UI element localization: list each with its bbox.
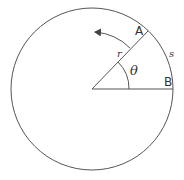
label-point-a: A xyxy=(135,24,144,38)
label-arc-length: s xyxy=(169,48,174,59)
label-point-b: B xyxy=(164,75,172,89)
rotation-arrow-icon xyxy=(95,32,130,48)
circle-diagram: A B r s θ xyxy=(0,0,184,180)
angle-arc xyxy=(118,62,129,89)
label-angle: θ xyxy=(130,63,138,78)
